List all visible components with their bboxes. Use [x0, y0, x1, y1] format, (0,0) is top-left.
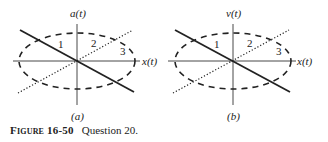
panel-a-curve-2-dotted-line [18, 30, 133, 93]
panel-a-sub-label: (a) [71, 110, 84, 123]
panel-b-curve-2-dotted-line [173, 30, 289, 93]
panel-a-curve-label-1: 1 [58, 38, 64, 50]
panel-a: a(t) x(t) 1 2 3 (a) [13, 7, 158, 123]
panel-b-y-axis-label: v(t) [226, 7, 242, 20]
panel-a-curve-label-2: 2 [91, 37, 97, 49]
figure-caption: Figure 16-50Question 20. [10, 124, 138, 136]
panel-a-x-axis-label: x(t) [141, 55, 158, 68]
panel-b-sub-label: (b) [227, 110, 240, 123]
panel-b-curve-label-1: 1 [214, 38, 220, 50]
figure-caption-text: Question 20. [82, 124, 138, 136]
panel-a-y-axis-label: a(t) [70, 7, 86, 20]
panel-b-curve-label-3: 3 [276, 45, 282, 57]
panel-b: v(t) x(t) 1 2 3 (b) [168, 7, 313, 123]
figure-caption-title: Figure 16-50 [10, 124, 74, 136]
panel-a-curve-label-3: 3 [120, 45, 126, 57]
panel-b-curve-label-2: 2 [247, 37, 253, 49]
panel-b-x-axis-label: x(t) [296, 55, 313, 68]
figure-canvas: a(t) x(t) 1 2 3 (a) v(t) x(t) 1 2 3 (b) [0, 0, 328, 142]
